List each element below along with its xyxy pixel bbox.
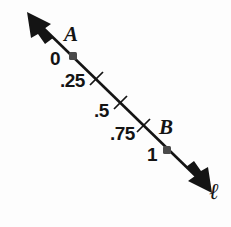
arrowhead-upper-left: [27, 12, 53, 44]
value-label-075: .75: [110, 124, 135, 143]
line-diagram-svg: [0, 0, 231, 227]
value-label-025: .25: [60, 71, 85, 90]
number-line-figure: A 0 .25 .5 .75 B 1 ℓ: [0, 0, 231, 227]
point-dot-a: [69, 52, 77, 60]
point-label-b: B: [159, 117, 173, 138]
value-label-05: .5: [94, 101, 109, 120]
point-label-a: A: [64, 24, 78, 45]
value-label-1: 1: [147, 145, 157, 164]
line-name-label: ℓ: [209, 180, 219, 203]
point-dot-b: [163, 146, 171, 154]
value-label-0: 0: [50, 49, 60, 68]
